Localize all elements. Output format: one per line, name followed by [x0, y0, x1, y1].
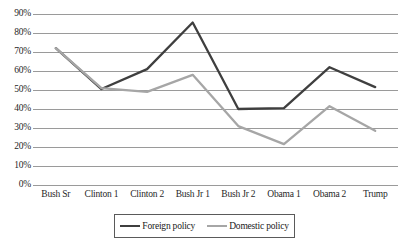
series-line	[56, 48, 375, 144]
x-tick-label: Bush Jr 1	[176, 188, 210, 200]
y-tick-label: 0%	[1, 180, 31, 190]
y-tick-label: 50%	[1, 85, 31, 95]
y-tick-label: 10%	[1, 161, 31, 171]
line-chart: 0%10%20%30%40%50%60%70%80%90% Bush SrCli…	[0, 0, 409, 250]
x-tick-label: Obama 2	[313, 188, 346, 200]
chart-legend: Foreign policyDomestic policy	[114, 214, 295, 238]
y-tick-label: 80%	[1, 28, 31, 38]
y-tick-label: 90%	[1, 9, 31, 19]
y-tick-label: 20%	[1, 142, 31, 152]
legend-entry[interactable]: Domestic policy	[207, 221, 289, 231]
x-tick-label: Trump	[363, 188, 388, 200]
x-tick-label: Bush Sr	[41, 188, 70, 200]
y-axis: 0%10%20%30%40%50%60%70%80%90%	[0, 14, 31, 185]
y-tick-label: 70%	[1, 47, 31, 57]
y-tick-label: 30%	[1, 123, 31, 133]
x-tick-label: Clinton 2	[130, 188, 164, 200]
legend-label: Foreign policy	[142, 221, 195, 231]
x-tick-label: Bush Jr 2	[221, 188, 255, 200]
plot-area	[33, 14, 398, 185]
legend-swatch	[207, 225, 227, 228]
x-tick-label: Clinton 1	[85, 188, 119, 200]
legend-swatch	[120, 225, 140, 228]
x-tick-label: Obama 1	[267, 188, 300, 200]
x-axis: Bush SrClinton 1Clinton 2Bush Jr 1Bush J…	[33, 188, 398, 204]
legend-label: Domestic policy	[229, 221, 289, 231]
y-tick-label: 60%	[1, 66, 31, 76]
y-tick-label: 40%	[1, 104, 31, 114]
series-line	[56, 23, 375, 109]
series-layer	[33, 14, 398, 185]
legend-entry[interactable]: Foreign policy	[120, 221, 195, 231]
